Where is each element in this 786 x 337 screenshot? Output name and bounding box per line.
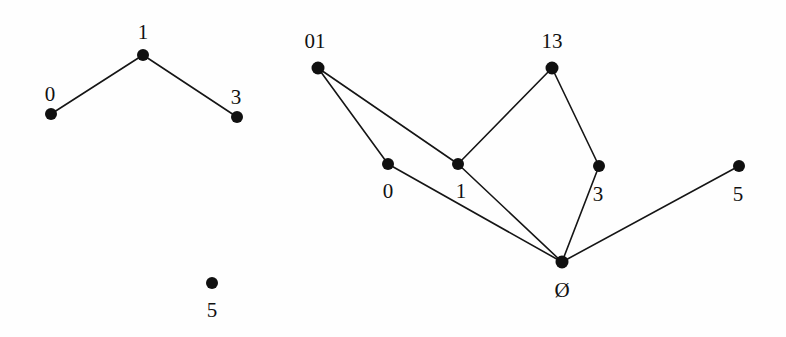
- node-label-r13: 13: [542, 31, 563, 52]
- graph-node-r5[interactable]: [733, 160, 745, 172]
- graph-node-r13[interactable]: [546, 62, 559, 75]
- graph-node-l0[interactable]: [45, 108, 57, 120]
- node-label-r0: 0: [383, 181, 394, 202]
- graph-edge-r0-re: [388, 164, 562, 262]
- graph-edge-l0-l1: [51, 55, 143, 114]
- node-label-re: Ø: [554, 280, 569, 301]
- graph-node-r01[interactable]: [312, 62, 325, 75]
- graph-edge-r1-r13: [458, 68, 552, 164]
- graph-edge-l1-l3: [143, 55, 237, 117]
- graph-node-re[interactable]: [556, 256, 569, 269]
- node-label-l5: 5: [207, 300, 218, 321]
- nodes-layer: [45, 49, 745, 289]
- graph-svg: [0, 0, 786, 337]
- node-label-r01: 01: [305, 31, 326, 52]
- node-label-r3: 3: [593, 184, 604, 205]
- graph-node-l3[interactable]: [231, 111, 243, 123]
- graph-edge-re-r5: [562, 166, 739, 262]
- graph-node-r0[interactable]: [382, 158, 394, 170]
- graph-node-r1[interactable]: [452, 158, 464, 170]
- node-label-r5: 5: [733, 184, 744, 205]
- edges-layer: [51, 55, 739, 262]
- node-label-l3: 3: [231, 87, 242, 108]
- figure-canvas: 103501130135Ø: [0, 0, 786, 337]
- graph-node-r3[interactable]: [593, 160, 605, 172]
- graph-edge-r13-r3: [552, 68, 599, 166]
- node-label-l0: 0: [45, 84, 56, 105]
- graph-edge-r01-r0: [318, 68, 388, 164]
- node-label-r1: 1: [456, 181, 467, 202]
- graph-edge-r3-re: [562, 166, 599, 262]
- node-label-l1: 1: [138, 22, 149, 43]
- graph-node-l1[interactable]: [137, 49, 149, 61]
- graph-edge-r01-r1: [318, 68, 458, 164]
- graph-node-l5[interactable]: [206, 277, 218, 289]
